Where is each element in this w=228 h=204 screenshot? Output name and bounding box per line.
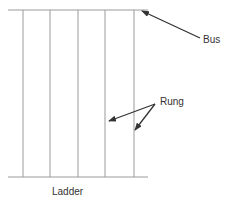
bus-label: Bus [203, 35, 220, 45]
ladder-diagram [0, 0, 228, 204]
ladder-label: Ladder [52, 187, 83, 197]
rung-label: Rung [160, 97, 184, 107]
bus-arrow [142, 11, 200, 38]
arrows [109, 11, 200, 130]
rungs [23, 10, 134, 177]
